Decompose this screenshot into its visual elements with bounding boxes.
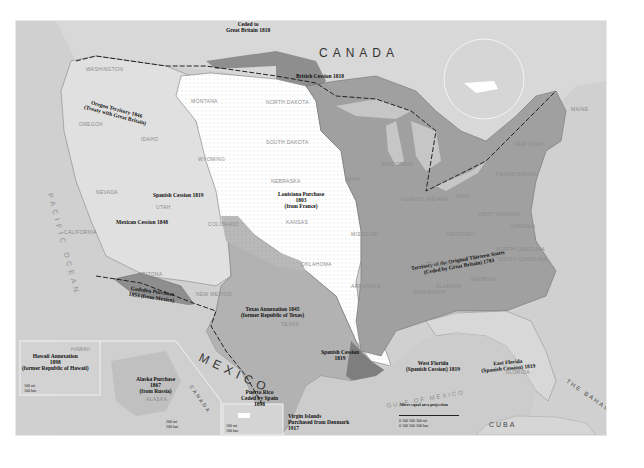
projection-note: Albers equal area projection	[399, 402, 448, 407]
country-label-canada: CANADA	[319, 46, 399, 60]
state-label-west-virginia: WEST VIRGINIA	[478, 211, 520, 217]
country-label-cuba: CUBA	[489, 421, 516, 428]
state-label-south-carolina: SOUTH CAROLINA	[498, 256, 547, 262]
hawaii-scale: 100 mi100 km	[24, 383, 36, 393]
state-label-georgia: GEORGIA	[471, 276, 496, 282]
state-label-washington: WASHINGTON	[86, 66, 123, 72]
label-spanish-cession-west: Spanish Cession 1819	[153, 192, 203, 198]
label-virgin-islands: Virgin IslandsPurchased from Denmark1917	[288, 413, 349, 431]
state-label-maine: MAINE	[571, 106, 588, 112]
state-label-california: CALIFORNIA	[64, 229, 97, 235]
state-label-illinois: ILLINOIS	[401, 196, 424, 202]
label-hawaii-annexation: Hawaii Annexation1898(former Republic of…	[22, 353, 89, 371]
state-label-texas: TEXAS	[281, 321, 299, 327]
state-label-mississippi: MISSISSIPPI	[413, 289, 446, 295]
state-label-utah: UTAH	[156, 204, 170, 210]
state-label-arkansas: ARKANSAS	[351, 283, 381, 289]
label-texas-annexation: Texas Annexation 1845(former Republic of…	[241, 306, 304, 318]
state-label-hawaii: HAWAII	[71, 346, 90, 352]
state-label-idaho: IDAHO	[141, 136, 158, 142]
label-louisiana-purchase: Louisiana Purchase1803(from France)	[278, 191, 324, 209]
state-label-alabama: ALABAMA	[436, 283, 462, 289]
state-label-oklahoma: OKLAHOMA	[301, 261, 332, 267]
state-label-north-dakota: NORTH DAKOTA	[266, 99, 309, 105]
label-alaska-purchase: Alaska Purchase1867(from Russia)	[136, 376, 175, 394]
territorial-acquisitions-map: CANADA MEXICO CUBA THE BAHAMAS CANADA PA…	[15, 20, 607, 436]
state-label-alaska: ALASKA	[146, 396, 167, 402]
state-label-nevada: NEVADA	[96, 189, 118, 195]
state-label-kentucky: KENTUCKY	[446, 231, 476, 237]
state-label-new-york: NEW YORK	[514, 141, 544, 147]
state-label-iowa: IOWA	[346, 176, 360, 182]
state-label-montana: MONTANA	[191, 98, 218, 104]
state-label-north-carolina: NORTH CAROLINA	[496, 246, 545, 252]
label-spanish-cession-south: Spanish Cession1819	[321, 349, 359, 361]
state-label-wyoming: WYOMING	[198, 156, 225, 162]
state-label-missouri: MISSOURI	[351, 231, 378, 237]
state-label-tennessee: TENNESSEE	[426, 261, 459, 267]
label-ceded-gb-1818: Ceded toGreat Britain 1818	[226, 21, 270, 33]
state-label-new-mexico: NEW MEXICO	[196, 291, 232, 297]
state-label-pennsylvania: PENNSYLVANIA	[496, 171, 537, 177]
state-label-ohio: OHIO	[456, 193, 470, 199]
main-scale-km: 0 100 200 300 km	[399, 423, 428, 428]
main-scale-bar	[399, 411, 459, 416]
label-mexican-cession: Mexican Cession 1848	[116, 219, 168, 225]
alaska-scale: 200 mi200 km	[166, 419, 178, 429]
state-label-wisconsin: WISCONSIN	[381, 161, 413, 167]
state-label-florida: FLORIDA	[506, 369, 530, 375]
state-label-arizona: ARIZONA	[138, 271, 162, 277]
state-label-colorado: COLORADO	[208, 221, 239, 227]
label-british-cession: British Cession 1818	[296, 73, 344, 79]
label-puerto-rico: Puerto RicoCeded by Spain1898	[241, 389, 278, 407]
state-label-nebraska: NEBRASKA	[271, 178, 301, 184]
state-label-south-dakota: SOUTH DAKOTA	[266, 139, 309, 145]
puerto-rico-scale: 100 mi100 km	[226, 423, 238, 433]
label-west-florida: West Florida(Spanish Cession) 1819	[406, 360, 460, 372]
state-label-virginia: VIRGINIA	[511, 223, 535, 229]
state-label-kansas: KANSAS	[286, 219, 308, 225]
state-label-indiana: INDIANA	[426, 196, 448, 202]
state-label-oregon: OREGON	[79, 121, 103, 127]
